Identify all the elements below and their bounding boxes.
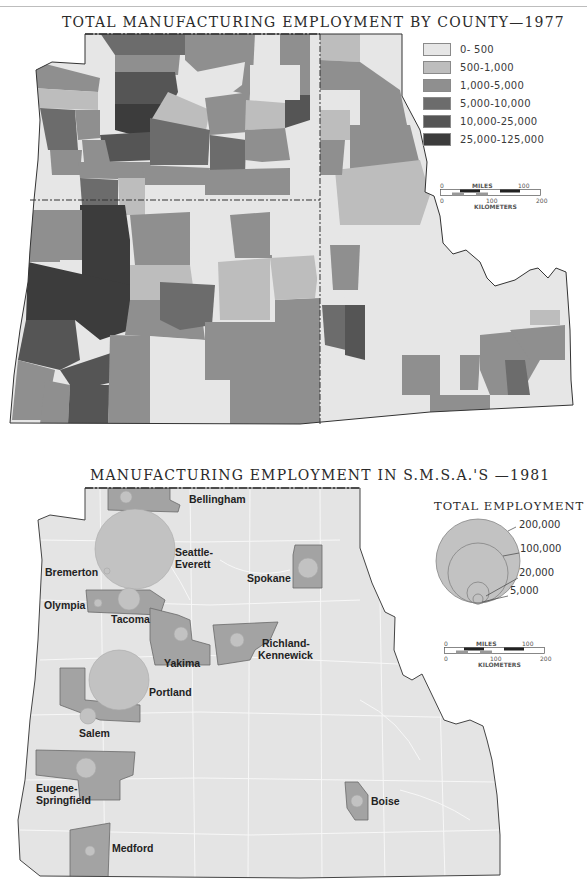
bubble-label-200000: 200,000: [519, 519, 560, 530]
city-label-line: Richland-: [258, 637, 313, 649]
bubble-legend-title: TOTAL EMPLOYMENT: [434, 499, 584, 513]
scale-miles-0: 0: [444, 640, 448, 647]
bubble-label-100000: 100,000: [520, 543, 561, 554]
city-label-spokane: Spokane: [247, 572, 291, 584]
city-label-salem: Salem: [79, 727, 110, 739]
city-label-line: Everett: [175, 558, 213, 570]
city-label-portland: Portland: [149, 686, 192, 698]
scale-miles-label: MILES: [476, 640, 496, 647]
scale-bar-graphic: [444, 647, 549, 655]
city-label-eugene-springfield: Eugene- Springfield: [36, 782, 91, 806]
city-label-line: Seattle-: [175, 546, 213, 558]
city-label-line: Eugene-: [36, 782, 91, 794]
scale-km-label: KILOMETERS: [478, 661, 521, 668]
bubble-label-5000: 5,000: [510, 585, 539, 596]
city-label-medford: Medford: [112, 842, 153, 854]
city-label-yakima: Yakima: [164, 657, 200, 669]
scale-km-200: 200: [540, 655, 551, 662]
city-label-tacoma: Tacoma: [111, 613, 150, 625]
city-label-line: Springfield: [36, 794, 91, 806]
city-label-seattle-everett: Seattle- Everett: [175, 546, 213, 570]
city-label-richland-kennewick: Richland- Kennewick: [258, 637, 313, 661]
bottom-scale-bar: 0 MILES 100 0 100 200 KILOMETERS: [444, 640, 554, 668]
scale-miles-100: 100: [522, 640, 533, 647]
bubble-label-20000: 20,000: [519, 567, 554, 578]
city-label-bremerton: Bremerton: [45, 566, 98, 578]
scale-km-0: 0: [444, 655, 448, 662]
city-label-boise: Boise: [371, 795, 400, 807]
smsa-employment-map: [0, 0, 587, 888]
city-label-olympia: Olympia: [44, 599, 85, 611]
city-label-bellingham: Bellingham: [189, 493, 246, 505]
bubble-legend-circles: [436, 519, 520, 604]
city-label-line: Kennewick: [258, 649, 313, 661]
